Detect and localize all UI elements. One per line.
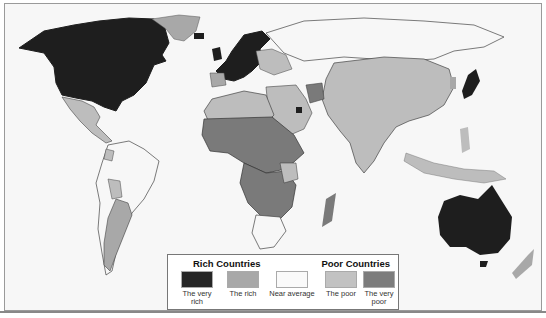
region-indonesia: [404, 153, 506, 183]
region-korea: [450, 77, 456, 89]
legend-heading-rich: Rich Countries: [193, 258, 261, 269]
legend-item-very-rich: The veryrich: [172, 271, 222, 306]
region-philippines: [460, 127, 470, 153]
legend-swatch-rich: [227, 271, 259, 288]
legend-item-rich: The rich: [218, 271, 268, 298]
legend-item-near-average: Near average: [264, 271, 320, 298]
region-southern-africa: [252, 215, 286, 249]
region-ecuador: [104, 149, 114, 161]
region-japan: [462, 69, 480, 99]
legend-label: The veryrich: [172, 290, 222, 306]
region-new-zealand: [512, 249, 534, 279]
region-madagascar: [322, 193, 336, 227]
region-iberia: [210, 73, 226, 87]
region-russia: [266, 18, 504, 61]
legend-swatch-very-rich: [181, 271, 213, 288]
region-australia: [438, 185, 512, 255]
legend-swatch-poor: [325, 271, 357, 288]
legend-swatch-near-average: [276, 271, 308, 288]
region-gulf-rich: [296, 107, 302, 113]
legend-label: The rich: [218, 290, 268, 298]
region-uk: [212, 47, 222, 61]
region-iceland: [194, 33, 204, 39]
legend-item-very-poor: The verypoor: [354, 271, 404, 306]
legend-heading-poor: Poor Countries: [321, 258, 390, 269]
map-legend: Rich Countries Poor Countries The veryri…: [167, 254, 399, 310]
legend-swatch-very-poor: [363, 271, 395, 288]
bottom-rule: [0, 311, 546, 313]
region-china-india: [322, 57, 454, 173]
region-tasmania: [480, 261, 488, 267]
region-north-america: [19, 18, 169, 111]
region-afghanistan: [306, 83, 324, 103]
legend-label: Near average: [264, 290, 320, 298]
legend-label: The verypoor: [354, 290, 404, 306]
